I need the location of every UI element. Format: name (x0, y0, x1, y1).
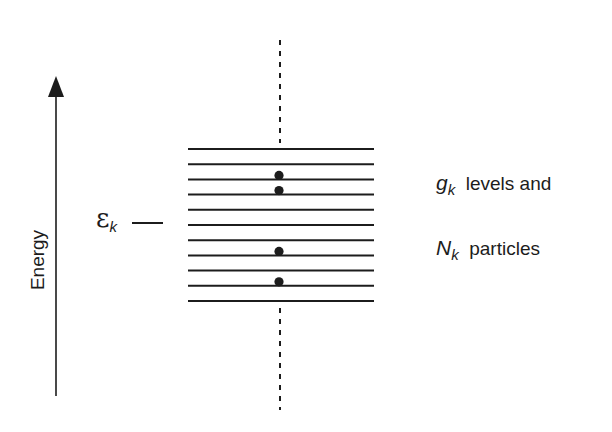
particle-dot (274, 247, 283, 256)
degeneracy-annotation: gk levels and (436, 171, 551, 198)
particle-count-symbol: N (436, 236, 451, 259)
particle-count-subscript: k (451, 246, 459, 263)
degeneracy-subscript: k (448, 181, 456, 198)
energy-level-diagram (0, 0, 612, 432)
particle-dot (274, 277, 283, 286)
degeneracy-symbol: g (436, 171, 448, 194)
particle-count-text: particles (469, 238, 540, 259)
epsilon-subscript: k (109, 218, 117, 235)
energy-axis-arrow (48, 76, 64, 396)
particle-count-annotation: Nk particles (436, 236, 540, 263)
energy-axis-label: Energy (27, 230, 49, 290)
energy-level-epsilon-label: εk (96, 203, 117, 235)
particle-dot (274, 186, 283, 195)
epsilon-symbol: ε (96, 203, 109, 233)
degeneracy-text: levels and (466, 173, 552, 194)
particle-dot (274, 171, 283, 180)
particles-group (274, 171, 283, 287)
